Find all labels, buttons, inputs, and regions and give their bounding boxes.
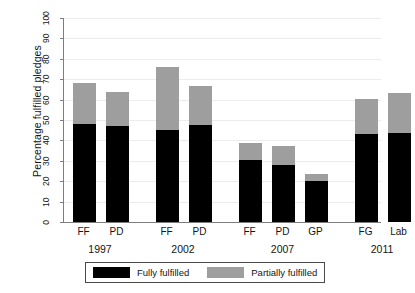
legend-label-fully-fulfilled: Fully fulfilled: [137, 268, 189, 278]
x-category-label-2011-Lab: Lab: [379, 226, 415, 238]
bar-segment-partially-fulfilled: [355, 99, 378, 135]
x-axis-line: [63, 222, 381, 223]
plot-area: 0102030405060708090100: [63, 18, 381, 222]
chart-legend: Fully fulfilled Partially fulfilled: [85, 262, 325, 283]
bar-segment-fully-fulfilled: [272, 165, 295, 222]
bar-2007-GP: [305, 174, 328, 222]
y-tick-label: 80: [42, 47, 51, 71]
y-tick-label: 30: [42, 149, 51, 173]
x-group-label-2002: 2002: [148, 243, 218, 255]
bar-segment-fully-fulfilled: [355, 134, 378, 222]
bar-segment-fully-fulfilled: [239, 160, 262, 222]
x-category-label-2007-GP: GP: [296, 226, 336, 238]
bar-2011-Lab: [388, 93, 411, 222]
bar-segment-fully-fulfilled: [305, 181, 328, 222]
bars-layer: [64, 18, 381, 222]
y-tick-label: 10: [42, 190, 51, 214]
legend-label-partially-fulfilled: Partially fulfilled: [251, 268, 317, 278]
bar-2002-FF: [156, 67, 179, 222]
bar-1997-FF: [73, 83, 96, 222]
bar-segment-fully-fulfilled: [106, 126, 129, 222]
x-category-label-2002-PD: PD: [180, 226, 220, 238]
legend-item-partially-fulfilled: Partially fulfilled: [207, 267, 317, 278]
bar-2007-PD: [272, 146, 295, 223]
bar-segment-partially-fulfilled: [156, 67, 179, 130]
bar-segment-fully-fulfilled: [189, 125, 212, 222]
bar-2011-FG: [355, 99, 378, 222]
bar-segment-partially-fulfilled: [106, 92, 129, 126]
bar-segment-fully-fulfilled: [156, 130, 179, 222]
bar-segment-partially-fulfilled: [73, 83, 96, 124]
bar-segment-partially-fulfilled: [388, 93, 411, 133]
legend-swatch-fully-fulfilled: [93, 267, 130, 278]
legend-item-fully-fulfilled: Fully fulfilled: [93, 267, 189, 278]
bar-2007-FF: [239, 143, 262, 222]
x-group-label-1997: 1997: [65, 243, 135, 255]
bar-segment-partially-fulfilled: [305, 174, 328, 181]
bar-segment-partially-fulfilled: [239, 143, 262, 159]
bar-segment-fully-fulfilled: [73, 124, 96, 222]
x-group-label-2007: 2007: [248, 243, 318, 255]
y-tick-label: 60: [42, 88, 51, 112]
x-group-label-2011: 2011: [347, 243, 415, 255]
bar-1997-PD: [106, 92, 129, 222]
bar-2002-PD: [189, 86, 212, 222]
legend-swatch-partially-fulfilled: [207, 267, 244, 278]
bar-segment-partially-fulfilled: [189, 86, 212, 125]
bar-segment-fully-fulfilled: [388, 133, 411, 222]
x-category-label-1997-PD: PD: [97, 226, 137, 238]
bar-segment-partially-fulfilled: [272, 146, 295, 165]
y-tick-label: 100: [42, 6, 51, 30]
